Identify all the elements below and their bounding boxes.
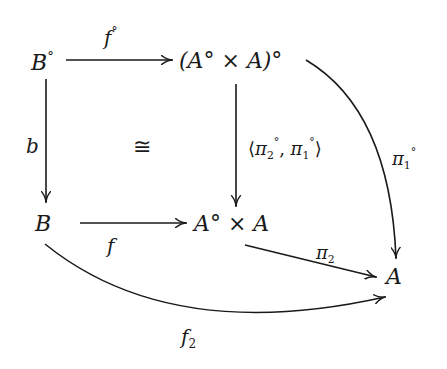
commutative-diagram: B° (A° × A)° B A° × A A f° b ≅ ⟨π2°, π1°… <box>0 0 447 369</box>
pair-pi-b: π <box>291 138 303 159</box>
label-f-op-sup: ° <box>111 25 117 39</box>
object-prod-op: (A° × A)° <box>179 50 282 72</box>
label-pi2: π2 <box>316 244 335 266</box>
pair-open: ⟨ <box>248 138 255 159</box>
object-b: B <box>35 213 51 235</box>
label-b: b <box>26 136 39 156</box>
pi1-op-pi: π <box>392 148 404 169</box>
f2-sub: 2 <box>188 337 196 351</box>
arrow-pi2 <box>245 245 376 277</box>
pi2-pi: π <box>316 242 328 263</box>
object-a: A <box>386 266 402 288</box>
pair-sub1: 1 <box>302 149 309 162</box>
iso-symbol: ≅ <box>133 136 151 158</box>
label-f-op: f° <box>104 26 117 48</box>
pi2-sub: 2 <box>328 253 335 266</box>
object-b-op-base: B <box>31 50 47 75</box>
pair-comma: , <box>279 138 290 159</box>
label-f2: f2 <box>181 327 196 350</box>
pair-sub2: 2 <box>267 149 274 162</box>
pi1-op-sub: 1 <box>404 159 411 172</box>
label-pair: ⟨π2°, π1°⟩ <box>248 138 322 162</box>
object-b-op-sup: ° <box>47 49 54 64</box>
pair-close: ⟩ <box>315 138 322 159</box>
label-pi1-op: π1° <box>392 148 416 172</box>
object-b-op: B° <box>31 50 54 74</box>
object-prod: A° × A <box>194 213 269 235</box>
pair-pi-a: π <box>255 138 267 159</box>
pi1-op-sup: ° <box>411 146 416 159</box>
label-f: f <box>107 236 114 256</box>
